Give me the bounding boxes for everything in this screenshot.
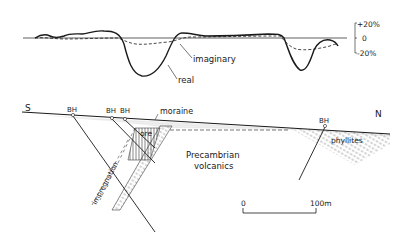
borehole-label-4: BH [319, 117, 329, 125]
moraine-label: moraine [160, 107, 193, 116]
scale-bar [243, 208, 316, 213]
scale-minus-20: -20% [357, 49, 376, 58]
imaginary-leader [180, 44, 192, 58]
geological-section: S N BH BH BH BH moraine ore impregnation… [22, 103, 390, 232]
borehole-label-3: BH [120, 107, 130, 115]
borehole-label-1: BH [67, 106, 77, 114]
real-curve [35, 31, 338, 76]
real-label: real [178, 75, 194, 85]
ground-surface [22, 112, 390, 134]
moraine-leader [155, 114, 158, 120]
geophysical-profile-figure: imaginary real +20% 0 -20% S N BH [0, 0, 409, 243]
volcanics-label-line1: Precambrian [186, 150, 240, 160]
south-label: S [25, 103, 31, 113]
borehole-label-2: BH [106, 107, 116, 115]
imaginary-label: imaginary [193, 54, 236, 64]
real-leader [168, 65, 177, 79]
scale-plus-20: +20% [357, 20, 380, 29]
scale-bar-end: 100m [310, 199, 332, 208]
volcanics-label-line2: volcanics [194, 161, 234, 171]
scale-bar-start: 0 [241, 199, 246, 208]
scale-zero: 0 [362, 34, 367, 43]
ore-label: ore [140, 129, 153, 138]
north-label: N [375, 109, 382, 119]
impregnation-label: impregnation [91, 161, 120, 206]
em-profile: imaginary real +20% 0 -20% [23, 20, 380, 85]
phyllites-label: phyllites [331, 136, 363, 145]
